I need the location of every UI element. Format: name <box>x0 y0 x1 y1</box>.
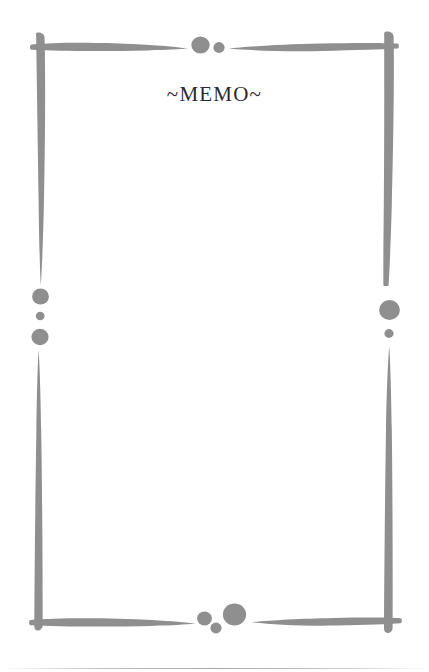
memo-page: ~MEMO~ <box>0 0 429 672</box>
left-medium-dot <box>32 289 49 305</box>
right-lower-vertical-stroke <box>384 346 393 633</box>
right-small-dot <box>384 329 393 338</box>
scan-edge-artifact <box>0 668 429 669</box>
right-large-dot <box>379 300 400 320</box>
page-title: ~MEMO~ <box>0 82 429 107</box>
top-right-horizontal-stroke <box>229 43 399 51</box>
bottom-right-horizontal-stroke <box>252 617 402 625</box>
bottom-left-horizontal-stroke <box>29 618 195 626</box>
bottom-small-dot <box>210 623 221 634</box>
right-upper-vertical-stroke <box>383 32 394 287</box>
bottom-large-dot <box>223 604 246 626</box>
left-lower-vertical-stroke <box>34 350 42 631</box>
left-large-dot <box>31 329 48 345</box>
top-large-dot <box>191 36 209 53</box>
bottom-medium-dot <box>197 612 212 626</box>
left-upper-vertical-stroke <box>36 33 45 286</box>
top-left-horizontal-stroke <box>30 43 189 51</box>
memo-writing-area[interactable] <box>55 120 373 598</box>
top-small-dot <box>213 42 224 53</box>
left-small-dot <box>36 312 45 320</box>
